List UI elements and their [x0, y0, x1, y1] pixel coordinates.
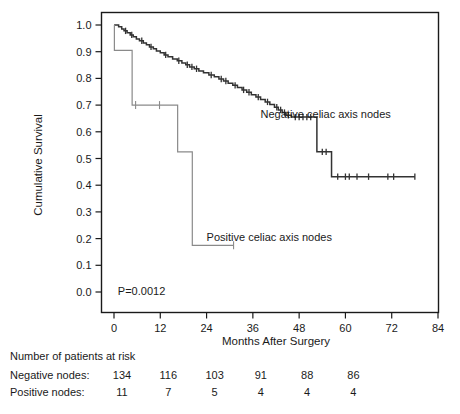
- x-tick-label: 0: [111, 322, 117, 334]
- risk-table-caption: Number of patients at risk: [10, 350, 136, 362]
- risk-cell: 86: [347, 369, 359, 381]
- risk-cell: 4: [258, 386, 264, 398]
- risk-cell: 88: [301, 369, 313, 381]
- kaplan-meier-figure: 0.00.10.20.30.40.50.60.70.80.91.0 012243…: [0, 0, 460, 414]
- x-tick-label: 24: [200, 322, 212, 334]
- y-tick-label: 0.6: [76, 126, 91, 138]
- y-tick-label: 1.0: [76, 19, 91, 31]
- risk-cell: 4: [350, 386, 356, 398]
- p-value-label: P=0.0012: [118, 285, 165, 297]
- curve-label-positive: Positive celiac axis nodes: [207, 231, 333, 243]
- y-tick-label: 0.7: [76, 99, 91, 111]
- risk-cell: 7: [165, 386, 171, 398]
- y-tick-label: 0.3: [76, 206, 91, 218]
- y-tick-label: 0.9: [76, 46, 91, 58]
- survival-chart: 0.00.10.20.30.40.50.60.70.80.91.0 012243…: [0, 0, 460, 414]
- risk-cell: 11: [116, 386, 127, 398]
- risk-cell: 103: [205, 369, 223, 381]
- y-tick-label: 0.0: [76, 286, 91, 298]
- x-axis-title: Months After Surgery: [222, 335, 330, 347]
- x-tick-label: 48: [293, 322, 305, 334]
- risk-cell: 91: [255, 369, 267, 381]
- x-tick-label: 60: [339, 322, 351, 334]
- x-tick-label: 36: [247, 322, 259, 334]
- y-axis-title: Cumulative Survival: [32, 114, 44, 216]
- y-tick-label: 0.1: [76, 259, 91, 271]
- y-tick-label: 0.4: [76, 179, 91, 191]
- risk-cell: 4: [304, 386, 310, 398]
- y-tick-label: 0.8: [76, 72, 91, 84]
- risk-row-label: Negative nodes:: [10, 369, 90, 381]
- y-tick-label: 0.2: [76, 233, 91, 245]
- risk-cell: 134: [113, 369, 131, 381]
- y-tick-label: 0.5: [76, 153, 91, 165]
- curve-label-negative: Negative celiac axis nodes: [261, 108, 392, 120]
- risk-cell: 116: [160, 369, 178, 381]
- x-tick-label: 84: [432, 322, 444, 334]
- x-tick-label: 12: [154, 322, 166, 334]
- risk-cell: 5: [212, 386, 218, 398]
- x-tick-label: 72: [386, 322, 398, 334]
- risk-row-label: Positive nodes:: [10, 386, 85, 398]
